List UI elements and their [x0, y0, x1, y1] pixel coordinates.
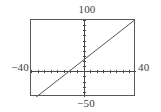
x-max-label: 40 — [138, 61, 160, 73]
plot-frame — [30, 19, 135, 96]
curve-line-series-0 — [35, 20, 136, 97]
y-min-label: −50 — [68, 97, 104, 109]
graphing-calculator-figure: 100 −40 40 −50 — [0, 0, 161, 112]
plot-canvas — [31, 20, 136, 97]
x-min-label: −40 — [2, 61, 29, 73]
y-max-label: 100 — [70, 3, 104, 15]
plotted-curves — [35, 20, 136, 97]
